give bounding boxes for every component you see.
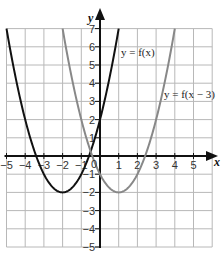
x-axis-label: x bbox=[213, 155, 220, 169]
x-tick-label: −2 bbox=[56, 159, 69, 171]
y-tick-label: −5 bbox=[82, 241, 95, 253]
y-tick-label: 2 bbox=[89, 114, 95, 126]
x-tick-label: 1 bbox=[116, 159, 122, 171]
grid bbox=[7, 29, 213, 247]
x-tick-label: −4 bbox=[19, 159, 32, 171]
y-tick-label: −2 bbox=[82, 186, 95, 198]
y-axis-label: y bbox=[86, 11, 94, 25]
function-graph: −5−4−3−2−112345−5−4−3−2−11234567 y x y =… bbox=[0, 0, 224, 256]
y-tick-label: −4 bbox=[82, 223, 95, 235]
y-tick-label: 3 bbox=[89, 95, 95, 107]
y-tick-label: −3 bbox=[82, 205, 95, 217]
axes bbox=[5, 8, 219, 248]
curve-label-fx: y = f(x) bbox=[121, 46, 155, 59]
x-tick-label: 5 bbox=[190, 159, 196, 171]
x-tick-label: −5 bbox=[0, 159, 13, 171]
y-axis-arrow-icon bbox=[95, 8, 105, 20]
x-tick-label: 4 bbox=[172, 159, 178, 171]
origin-label: 0 bbox=[91, 158, 97, 170]
x-tick-label: 3 bbox=[153, 159, 159, 171]
y-tick-label: 5 bbox=[89, 59, 95, 71]
curve-label-fx-minus-3: y = f(x − 3) bbox=[164, 88, 215, 101]
y-tick-label: 6 bbox=[89, 41, 95, 53]
y-tick-label: 4 bbox=[89, 77, 95, 89]
